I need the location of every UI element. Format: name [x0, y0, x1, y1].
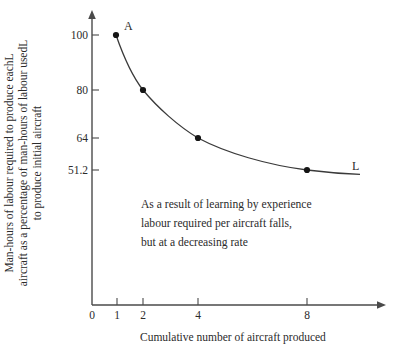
y-axis-title-line-3: to produce initial aircraft	[31, 105, 44, 220]
x-tick-label-1: 1	[114, 309, 120, 321]
data-point-1	[113, 32, 119, 38]
y-tick-label-80: 80	[77, 84, 89, 96]
y-tick-label-100: 100	[71, 29, 89, 41]
data-point-2	[140, 87, 146, 93]
curve-label-l: L	[352, 159, 359, 173]
x-tick-label-0: 0	[89, 309, 95, 321]
learning-curve-path	[116, 35, 360, 174]
learning-curve-chart: 100 80 64 51.2 0 1 2 4 8 A L Man-hours o…	[0, 0, 400, 355]
x-tick-label-8: 8	[304, 309, 310, 321]
y-tick-label-64: 64	[77, 132, 89, 144]
x-tick-label-2: 2	[140, 309, 146, 321]
data-point-4	[195, 135, 201, 141]
y-axis-title-line-2: aircraft as a percentage of man-hours of…	[17, 40, 30, 287]
x-tick-label-4: 4	[195, 309, 201, 321]
x-axis-title: Cumulative number of aircraft produced	[140, 331, 326, 344]
annotation-line-3: but at a decreasing rate	[141, 236, 248, 249]
x-axis-arrow-icon	[377, 301, 386, 309]
annotation-line-2: labour required per aircraft falls,	[141, 217, 292, 230]
y-tick-label-51-2: 51.2	[68, 164, 88, 176]
y-axis-arrow-icon	[88, 10, 96, 19]
curve-label-a: A	[124, 19, 133, 33]
data-point-8	[304, 167, 310, 173]
y-axis-title-line-1: Man-hours of labour required to produce …	[3, 53, 16, 272]
chart-figure: 100 80 64 51.2 0 1 2 4 8 A L Man-hours o…	[0, 0, 400, 355]
annotation-line-1: As a result of learning by experience	[141, 198, 312, 211]
